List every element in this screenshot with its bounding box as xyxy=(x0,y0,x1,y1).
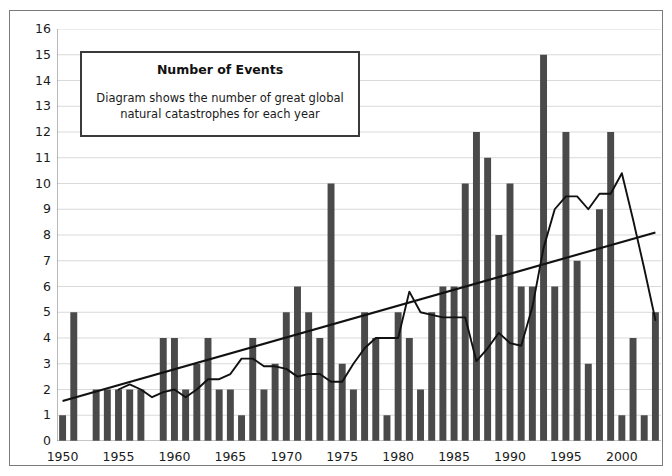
bar xyxy=(451,287,458,442)
bar xyxy=(384,415,391,441)
legend-description-line2: natural catastrophes for each year xyxy=(96,107,343,123)
bar xyxy=(294,287,301,442)
bar xyxy=(652,312,659,441)
y-tick-label: 5 xyxy=(43,306,51,319)
bar xyxy=(641,415,648,441)
bar xyxy=(596,209,603,441)
y-tick-label: 13 xyxy=(35,100,51,113)
bar xyxy=(316,338,323,441)
y-tick-label: 9 xyxy=(43,203,51,216)
bar xyxy=(350,390,357,442)
bar xyxy=(249,338,256,441)
y-tick-label: 3 xyxy=(43,358,51,371)
bar xyxy=(372,338,379,441)
bar xyxy=(115,390,122,442)
bar xyxy=(70,312,77,441)
bar xyxy=(439,287,446,442)
x-tick-label: 1985 xyxy=(438,451,470,464)
y-tick-label: 10 xyxy=(35,177,51,190)
x-tick-label: 1990 xyxy=(494,451,526,464)
y-tick-label: 2 xyxy=(43,383,51,396)
chart-frame: 012345678910111213141516 195019551960196… xyxy=(9,10,663,466)
x-tick-label: 1980 xyxy=(382,451,414,464)
y-tick-label: 12 xyxy=(35,126,51,139)
y-tick-label: 11 xyxy=(35,152,51,165)
bar xyxy=(551,287,558,442)
bar xyxy=(618,415,625,441)
legend-title: Number of Events xyxy=(157,62,283,77)
bar xyxy=(484,158,491,441)
bar xyxy=(283,312,290,441)
bar xyxy=(160,338,167,441)
y-tick-label: 4 xyxy=(43,332,51,345)
bar xyxy=(137,390,144,442)
bar xyxy=(238,415,245,441)
bar xyxy=(574,261,581,441)
x-tick-label: 1995 xyxy=(550,451,582,464)
bar xyxy=(216,390,223,442)
bar xyxy=(272,364,279,441)
y-tick-label: 8 xyxy=(43,229,51,242)
bar xyxy=(507,184,514,442)
bar xyxy=(518,287,525,442)
bar xyxy=(126,390,133,442)
bar xyxy=(562,132,569,441)
y-axis: 012345678910111213141516 xyxy=(10,29,51,441)
y-tick-label: 16 xyxy=(35,23,51,36)
x-tick-label: 2000 xyxy=(606,451,638,464)
legend-description: Diagram shows the number of great global… xyxy=(88,91,351,122)
bar xyxy=(361,312,368,441)
bar xyxy=(227,390,234,442)
bar xyxy=(193,364,200,441)
bar xyxy=(328,184,335,442)
bar xyxy=(417,390,424,442)
bar xyxy=(630,338,637,441)
y-tick-label: 14 xyxy=(35,74,51,87)
bar xyxy=(93,390,100,442)
bar xyxy=(339,364,346,441)
bar xyxy=(585,364,592,441)
y-tick-label: 7 xyxy=(43,255,51,268)
x-tick-label: 1950 xyxy=(47,451,79,464)
bar xyxy=(607,132,614,441)
bar xyxy=(59,415,66,441)
bar xyxy=(462,184,469,442)
bar xyxy=(406,338,413,441)
bar xyxy=(104,390,111,442)
bar xyxy=(473,132,480,441)
y-tick-label: 1 xyxy=(43,409,51,422)
x-axis: 1950195519601965197019751980198519901995… xyxy=(57,451,661,469)
x-tick-label: 1965 xyxy=(214,451,246,464)
bar xyxy=(428,312,435,441)
legend-box: Number of Events Diagram shows the numbe… xyxy=(80,51,360,137)
y-tick-label: 0 xyxy=(43,435,51,448)
bar xyxy=(495,235,502,441)
x-tick-label: 1960 xyxy=(159,451,191,464)
x-tick-label: 1970 xyxy=(270,451,302,464)
bar xyxy=(260,390,267,442)
y-tick-label: 6 xyxy=(43,280,51,293)
x-tick-label: 1975 xyxy=(326,451,358,464)
x-tick-label: 1955 xyxy=(103,451,135,464)
legend-description-line1: Diagram shows the number of great global xyxy=(96,91,343,107)
chart-page: 012345678910111213141516 195019551960196… xyxy=(0,0,672,476)
y-tick-label: 15 xyxy=(35,49,51,62)
bar xyxy=(205,338,212,441)
